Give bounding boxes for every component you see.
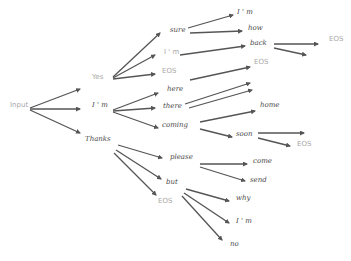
beam-search-diagram: InputYesI ' mThankssureI ' mEOSherethere…	[0, 0, 351, 261]
arrow-edge	[274, 48, 306, 55]
node-please: please	[170, 154, 193, 161]
node-eos4: EOS	[297, 141, 311, 148]
node-soon: soon	[236, 131, 253, 138]
node-thanks: Thanks	[85, 136, 111, 143]
node-sure: sure	[170, 27, 186, 34]
arrow-edge	[116, 150, 161, 179]
arrow-edge	[200, 129, 232, 137]
arrow-edge	[182, 196, 222, 240]
arrow-edge	[114, 153, 156, 195]
node-im3: I ' m	[237, 9, 253, 16]
node-eos3: EOS	[329, 36, 343, 43]
node-home: home	[260, 102, 280, 109]
node-there: there	[163, 103, 182, 110]
node-eos2: EOS	[254, 59, 268, 66]
node-yes: Yes	[92, 74, 103, 81]
arrow-edge	[113, 108, 155, 111]
arrow-edge	[190, 67, 250, 80]
arrow-edge	[113, 112, 158, 128]
node-why: why	[236, 195, 250, 202]
node-but: but	[166, 179, 178, 186]
node-im4: I ' m	[236, 218, 252, 225]
node-im2: I ' m	[164, 49, 179, 56]
node-come: come	[253, 158, 272, 165]
node-input: Input	[10, 102, 28, 109]
node-back: back	[250, 40, 267, 47]
arrow-edge	[180, 46, 245, 55]
node-how: how	[248, 25, 263, 32]
node-im1: I ' m	[92, 102, 108, 109]
arrow-edge	[200, 111, 255, 122]
arrow-edge	[113, 93, 158, 110]
node-eos5: EOS	[158, 198, 172, 205]
arrow-edge	[184, 193, 229, 223]
arrow-edge	[30, 110, 80, 133]
node-no: no	[230, 241, 239, 248]
edges-layer	[0, 0, 351, 261]
node-send: send	[250, 177, 267, 184]
arrow-edge	[258, 138, 290, 146]
arrow-edge	[113, 33, 160, 77]
arrow-edge	[30, 89, 80, 108]
arrow-edge	[190, 31, 242, 33]
arrow-edge	[200, 167, 245, 181]
node-eos1: EOS	[162, 68, 176, 75]
node-here: here	[167, 86, 183, 93]
arrow-edge	[188, 15, 233, 28]
node-coming: coming	[162, 122, 188, 129]
